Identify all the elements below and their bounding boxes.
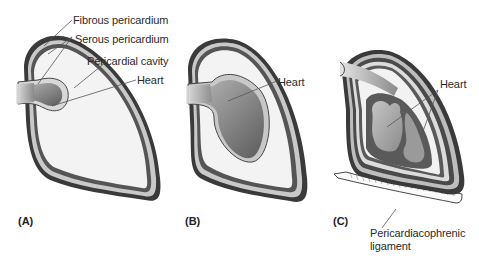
label-heart-c: Heart	[440, 78, 466, 90]
panel-label-c: (C)	[333, 215, 348, 227]
panel-b-drawing	[186, 38, 307, 201]
panel-label-b: (B)	[185, 215, 200, 227]
label-ligament-line1: Pericardiacophrenic	[370, 227, 465, 239]
pericardium-diagram	[0, 0, 479, 261]
label-heart-b: Heart	[278, 76, 304, 88]
label-heart-a: Heart	[137, 74, 163, 86]
label-pericardial-cavity: Pericardial cavity	[87, 55, 168, 67]
label-serous-pericardium: Serous pericardium	[75, 33, 169, 45]
label-ligament-line2: ligament	[370, 240, 411, 252]
panel-label-a: (A)	[18, 215, 33, 227]
panel-c-drawing	[334, 50, 464, 203]
label-fibrous-pericardium: Fibrous pericardium	[73, 14, 168, 26]
